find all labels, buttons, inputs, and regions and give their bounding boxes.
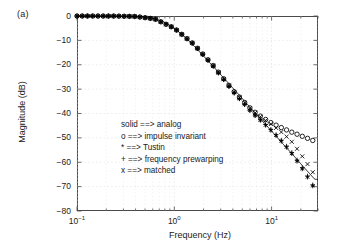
y-axis-title: Magnitude (dB): [17, 62, 27, 162]
legend-entry-analog: solid ==> analog: [121, 119, 223, 131]
y-tick-label: −20: [41, 59, 71, 69]
y-tick-label: −10: [41, 35, 71, 45]
legend-entry-matched: x ==> matched: [121, 165, 223, 177]
legend-entry-frequency-prewarping: + ==> frequency prewarping: [121, 154, 223, 166]
x-tick-label: 100: [157, 215, 191, 226]
legend-entry-tustin: * ==> Tustin: [121, 142, 223, 154]
y-tick-label: −70: [41, 181, 71, 191]
figure-panel: (a) 0−10−20−30−40−50−60−70−80 10−1100101…: [0, 0, 339, 249]
y-tick-label: −30: [41, 84, 71, 94]
tick-marks: [77, 16, 318, 211]
chart-legend: solid ==> analog o ==> impulse invariant…: [121, 119, 223, 177]
grid-lines: [77, 16, 318, 211]
y-tick-label: −80: [41, 206, 71, 216]
x-axis-title: Frequency (Hz): [145, 230, 255, 240]
x-tick-label: 10−1: [60, 215, 94, 226]
y-tick-label: −40: [41, 108, 71, 118]
legend-entry-impulse-invariant: o ==> impulse invariant: [121, 131, 223, 143]
x-tick-label: 101: [255, 215, 289, 226]
y-tick-label: −60: [41, 157, 71, 167]
y-tick-label: 0: [41, 11, 71, 21]
y-tick-label: −50: [41, 132, 71, 142]
